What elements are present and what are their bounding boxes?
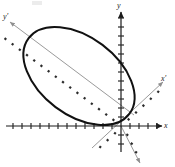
y-prime-axis — [4, 22, 140, 163]
x-prime-axis-ticks — [99, 90, 160, 148]
math-figure: x y x′ y′ — [0, 0, 175, 167]
x-prime-axis-label: x′ — [161, 75, 166, 83]
x-axis — [6, 123, 162, 129]
ellipse-path — [5, 7, 153, 145]
ellipse-curve — [5, 7, 153, 145]
x-axis-label: x — [164, 122, 168, 130]
coordinate-plot-canvas — [0, 0, 175, 167]
y-axis-label: y — [117, 2, 121, 10]
y-prime-axis-line — [10, 22, 134, 115]
y-prime-axis-label: y′ — [3, 13, 8, 21]
